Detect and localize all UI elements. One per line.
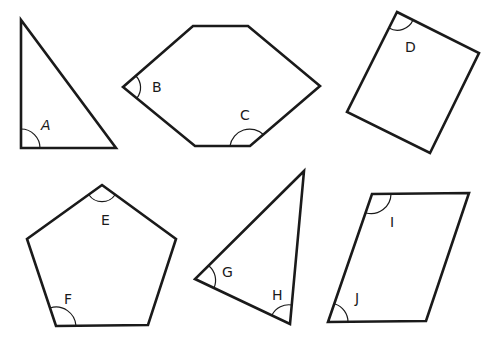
parallelogram-outline <box>328 193 469 322</box>
pentagon-ef: E F <box>27 185 176 326</box>
angle-d-label: D <box>405 39 416 55</box>
parallelogram-ij: I J <box>328 193 469 322</box>
angle-e-arc <box>89 195 115 202</box>
angle-a-arc <box>21 129 40 148</box>
pentagon-outline <box>27 185 176 326</box>
angle-i-label: I <box>390 214 394 230</box>
angle-j-label: J <box>354 290 359 306</box>
triangle-outline <box>195 171 304 324</box>
shapes-diagram: A B C D E F G H I J <box>0 0 503 353</box>
angle-c-label: C <box>240 107 250 123</box>
angle-h-label: H <box>272 287 283 303</box>
right-triangle-a: A <box>21 20 116 148</box>
triangle-gh: G H <box>195 171 304 324</box>
angle-e-label: E <box>101 212 110 228</box>
rectangle-d: D <box>347 12 479 153</box>
angle-f-label: F <box>64 291 72 307</box>
angle-g-label: G <box>222 264 233 280</box>
hexagon-bc: B C <box>123 26 320 146</box>
angle-j-arc <box>335 304 348 322</box>
angle-b-label: B <box>152 79 162 95</box>
angle-a-label: A <box>40 117 51 133</box>
rectangle-outline <box>347 12 479 153</box>
angle-h-arc <box>272 305 292 315</box>
triangle-outline <box>21 20 116 148</box>
angle-b-arc <box>136 76 141 98</box>
